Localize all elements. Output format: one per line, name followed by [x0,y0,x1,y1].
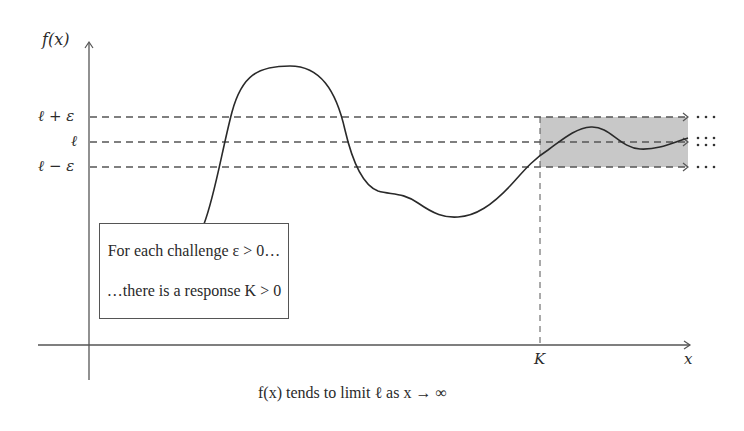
tick-upper: ℓ + ε [38,107,74,125]
y-axis-label: f(x) [42,30,69,49]
callout-box: For each challenge ε > 0… …there is a re… [99,223,289,319]
tick-k: K [534,350,545,368]
x-axis-label: x [684,350,692,368]
callout-line-2: …there is a response K > 0 [100,282,288,300]
tick-limit: ℓ [71,132,77,150]
caption: f(x) tends to limit ℓ as x → ∞ [258,384,447,402]
limit-diagram [0,0,744,431]
callout-line-1: For each challenge ε > 0… [100,242,288,260]
tick-lower: ℓ − ε [38,157,74,175]
